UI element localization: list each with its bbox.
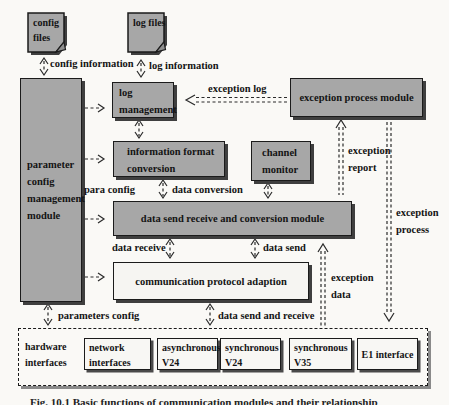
asynchronous-v24-label: asynchronous V24 <box>162 342 221 368</box>
figure-caption: Fig. 10.1 Basic functions of communicati… <box>30 396 440 405</box>
data-conversion-label: data conversion <box>172 181 243 198</box>
config-information-label: config information <box>50 55 134 72</box>
synchronous-v24-label: synchronous V24 <box>225 342 279 368</box>
log-management-label: log management <box>119 87 177 115</box>
synchronous-v35-box: synchronous V35 <box>289 338 352 370</box>
arrow-channel-monitor-link-heads <box>264 183 272 198</box>
data-send-label: data send <box>263 239 306 256</box>
arrow-exception-process-head <box>384 313 394 321</box>
log-management-module: log management <box>112 82 174 118</box>
channel-monitor-module: channel monitor <box>251 141 311 181</box>
network-interfaces-label: network interfaces <box>89 342 131 368</box>
parameter-config-management-label: parameter config management module <box>21 156 85 224</box>
arrow-exception-log <box>196 98 289 103</box>
log-information-label: log information <box>149 57 219 74</box>
config-files-label: config files <box>33 15 67 45</box>
arrow-exception-report-head <box>336 120 346 128</box>
exception-report-label: exception report <box>348 142 400 176</box>
asynchronous-v24-box: asynchronous V24 <box>157 338 218 370</box>
exception-process-label: exception process <box>396 204 449 238</box>
diagram-canvas: config files log files parameter config … <box>0 0 449 405</box>
exception-process-module-label: exception process module <box>299 89 413 106</box>
arrow-exception-report <box>339 127 343 195</box>
data-send-and-receive-label: data send and receive <box>218 307 314 324</box>
channel-monitor-label: channel monitor <box>262 147 298 175</box>
data-send-receive-conversion-label: data send receive and conversion module <box>141 210 324 227</box>
exception-log-label: exception log <box>208 80 267 97</box>
e1-interface-label: E1 interface <box>362 347 414 362</box>
hardware-interfaces-label: hardware interfaces <box>25 339 79 371</box>
e1-interface-box: E1 interface <box>357 338 418 370</box>
information-format-conversion-label: information format conversion <box>127 146 214 174</box>
log-files-label: log files <box>133 15 167 30</box>
communication-protocol-adaption-module: communication protocol adaption <box>113 262 309 300</box>
network-interfaces-box: network interfaces <box>84 338 151 370</box>
communication-protocol-adaption-label: communication protocol adaption <box>135 273 286 290</box>
parameter-config-management-module: parameter config management module <box>20 78 82 302</box>
config-files-icon: config files <box>26 11 74 59</box>
information-format-conversion-module: information format conversion <box>113 141 225 177</box>
data-receive-label: data receive <box>112 239 166 256</box>
arrow-exception-data <box>321 251 325 326</box>
parameters-config-label: parameters config <box>58 307 139 324</box>
synchronous-v35-label: synchronous V35 <box>294 342 348 368</box>
para-config-label: para config <box>84 181 135 198</box>
synchronous-v24-box: synchronous V24 <box>220 338 281 370</box>
exception-data-label: exception data <box>331 269 385 303</box>
log-files-icon: log files <box>126 11 174 59</box>
exception-process-module: exception process module <box>290 78 423 117</box>
arrow-exception-log-head <box>186 95 195 105</box>
data-send-receive-conversion-module: data send receive and conversion module <box>113 201 352 236</box>
arrow-exception-data-head <box>318 244 328 252</box>
